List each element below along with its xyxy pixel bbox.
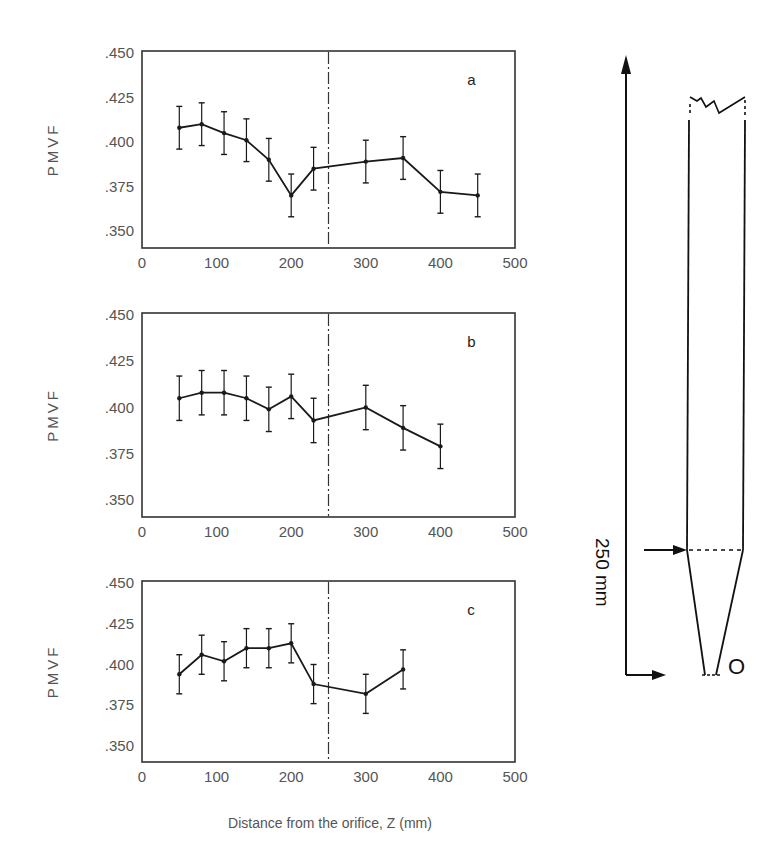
data-point <box>244 646 248 650</box>
x-tick-label: 400 <box>428 768 453 785</box>
pmvf-series-line <box>179 393 440 447</box>
panel-letter: c <box>467 601 475 618</box>
x-tick-label: 100 <box>204 523 229 540</box>
tube-left-wall <box>687 120 689 550</box>
data-point <box>267 158 271 162</box>
data-point <box>311 167 315 171</box>
hopper-schematic: 250 mmO <box>592 55 745 680</box>
x-tick-label: 400 <box>428 254 453 271</box>
data-point <box>476 193 480 197</box>
y-tick-label: .450 <box>105 44 134 61</box>
data-point <box>438 190 442 194</box>
arrow-right-icon <box>673 545 687 555</box>
data-point <box>364 405 368 409</box>
chart-panel-a: .450.425.400.375.3500100200300400500PMVF… <box>44 44 528 271</box>
y-tick-label: .425 <box>105 89 134 106</box>
x-tick-label: 100 <box>204 254 229 271</box>
data-point <box>401 156 405 160</box>
y-axis-label: PMVF <box>44 388 61 442</box>
x-tick-label: 300 <box>353 254 378 271</box>
y-axis-label: PMVF <box>44 123 61 177</box>
data-point <box>267 646 271 650</box>
x-tick-label: 200 <box>279 254 304 271</box>
data-point <box>222 391 226 395</box>
x-tick-label: 200 <box>279 768 304 785</box>
height-label: 250 mm <box>592 538 613 607</box>
y-tick-label: .400 <box>105 133 134 150</box>
x-tick-label: 0 <box>138 523 146 540</box>
y-tick-label: .400 <box>105 656 134 673</box>
cone-left-wall <box>687 550 705 675</box>
data-point <box>244 138 248 142</box>
x-tick-label: 500 <box>502 768 527 785</box>
y-tick-label: .425 <box>105 615 134 632</box>
orifice-label: O <box>728 654 745 679</box>
data-point <box>401 667 405 671</box>
y-tick-label: .375 <box>105 696 134 713</box>
x-tick-label: 400 <box>428 523 453 540</box>
data-point <box>244 396 248 400</box>
break-mark <box>690 97 745 113</box>
x-tick-label: 0 <box>138 254 146 271</box>
data-point <box>364 692 368 696</box>
panel-letter: a <box>467 71 476 88</box>
y-axis-label: PMVF <box>44 645 61 699</box>
data-point <box>199 122 203 126</box>
data-point <box>311 418 315 422</box>
x-tick-label: 500 <box>502 523 527 540</box>
data-point <box>177 672 181 676</box>
data-point <box>289 394 293 398</box>
data-point <box>438 444 442 448</box>
arrow-up-icon <box>621 55 631 74</box>
y-tick-label: .350 <box>105 222 134 239</box>
y-tick-label: .375 <box>105 178 134 195</box>
x-tick-label: 300 <box>353 768 378 785</box>
x-tick-label: 200 <box>279 523 304 540</box>
chart-panel-b: .450.425.400.375.3500100200300400500PMVF… <box>44 306 528 540</box>
y-tick-label: .425 <box>105 352 134 369</box>
y-tick-label: .400 <box>105 399 134 416</box>
y-tick-label: .350 <box>105 737 134 754</box>
data-point <box>199 391 203 395</box>
x-tick-label: 500 <box>502 254 527 271</box>
data-point <box>199 653 203 657</box>
data-point <box>289 193 293 197</box>
data-point <box>289 641 293 645</box>
data-point <box>311 682 315 686</box>
x-tick-label: 300 <box>353 523 378 540</box>
x-axis-title: Distance from the orifice, Z (mm) <box>0 815 660 831</box>
y-tick-label: .375 <box>105 445 134 462</box>
data-point <box>177 126 181 130</box>
y-tick-label: .450 <box>105 574 134 591</box>
data-point <box>177 396 181 400</box>
x-tick-label: 0 <box>138 768 146 785</box>
data-point <box>401 426 405 430</box>
chart-panel-c: .450.425.400.375.3500100200300400500PMVF… <box>44 574 528 785</box>
panel-letter: b <box>467 333 475 350</box>
tube-right-wall <box>743 120 745 550</box>
chart-panels: .450.425.400.375.3500100200300400500PMVF… <box>0 0 784 864</box>
data-point <box>222 131 226 135</box>
y-tick-label: .450 <box>105 306 134 323</box>
data-point <box>222 659 226 663</box>
data-point <box>267 407 271 411</box>
arrow-right-icon <box>652 670 666 680</box>
y-tick-label: .350 <box>105 491 134 508</box>
x-tick-label: 100 <box>204 768 229 785</box>
data-point <box>364 159 368 163</box>
figure: .450.425.400.375.3500100200300400500PMVF… <box>0 0 784 864</box>
